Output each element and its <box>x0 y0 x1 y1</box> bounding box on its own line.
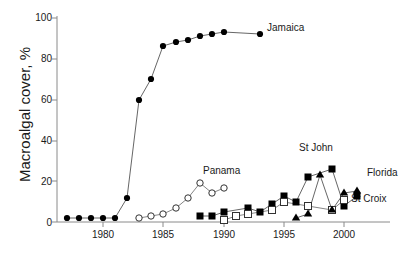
chart-plot-area <box>0 0 406 254</box>
series-markers-jamaica <box>64 29 263 221</box>
chart-figure: Macroalgal cover, % 100 80 60 40 20 0 19… <box>0 0 406 254</box>
series-line-jamaica <box>67 32 260 218</box>
series-markers-florida <box>292 171 361 221</box>
y-axis-ticks <box>52 18 57 222</box>
